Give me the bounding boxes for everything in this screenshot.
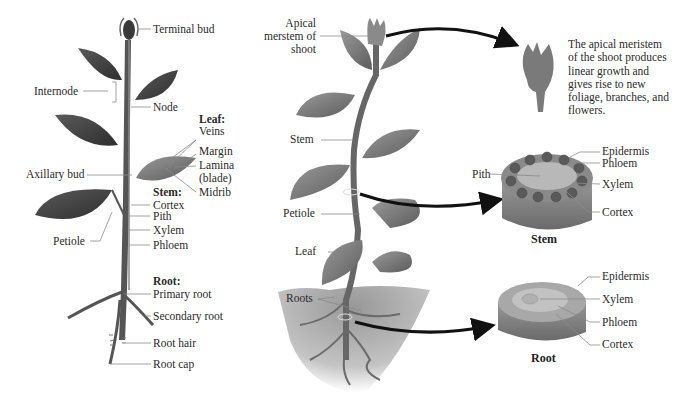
label-internode: Internode xyxy=(34,85,78,98)
label-petiole-middle: Petiole xyxy=(283,207,315,220)
label-petiole-left: Petiole xyxy=(53,235,85,248)
apical-description-line: gives rise to new xyxy=(568,78,692,91)
label-midrib: Midrib xyxy=(199,186,231,199)
label-terminal-bud: Terminal bud xyxy=(153,23,214,36)
label-stem-section-pith: Pith xyxy=(472,168,491,181)
apical-bud-icon xyxy=(367,18,385,46)
label-stem-phloem: Phloem xyxy=(153,239,188,252)
label-leaf-middle: Leaf xyxy=(295,245,316,258)
label-stem-heading: Stem: xyxy=(153,186,182,199)
label-apical-line3: shoot xyxy=(260,43,316,56)
apical-description-line: foliage, branches, and xyxy=(568,91,692,104)
label-lamina: Lamina xyxy=(199,159,234,172)
apical-meristem-detail xyxy=(523,42,554,112)
root-section-caption: Root xyxy=(531,351,556,366)
label-stem-xylem: Xylem xyxy=(153,224,184,237)
label-veins: Veins xyxy=(199,125,225,138)
apical-description-line: The apical meristem xyxy=(568,38,692,51)
label-apical-line1: Apical xyxy=(260,17,316,30)
label-stem-section-xylem: Xylem xyxy=(602,178,633,191)
root-cross-section xyxy=(498,277,600,345)
label-stem-section-cortex: Cortex xyxy=(602,206,633,219)
label-root-cap: Root cap xyxy=(153,358,194,371)
label-roots-middle: Roots xyxy=(286,292,313,305)
terminal-bud-icon xyxy=(120,18,138,40)
label-apical-line2: merstem of xyxy=(250,30,316,43)
stem-section-caption: Stem xyxy=(531,232,557,247)
label-blade: (blade) xyxy=(199,172,232,185)
label-margin: Margin xyxy=(199,145,233,158)
label-node: Node xyxy=(153,101,178,114)
apical-description-line: flowers. xyxy=(568,104,692,117)
label-stem-section-phloem: Phloem xyxy=(602,157,637,170)
label-root-hair: Root hair xyxy=(153,337,196,350)
stem-cross-section xyxy=(490,152,600,230)
label-root-phloem: Phloem xyxy=(602,316,637,329)
label-stem-middle: Stem xyxy=(290,133,314,146)
label-root-xylem: Xylem xyxy=(602,293,633,306)
label-axillary-bud: Axillary bud xyxy=(26,168,84,181)
label-stem-pith: Pith xyxy=(153,210,172,223)
label-root-heading: Root: xyxy=(153,275,180,288)
label-secondary-root: Secondary root xyxy=(153,310,223,323)
apical-description-line: linear growth and xyxy=(568,65,692,78)
label-primary-root: Primary root xyxy=(153,288,211,301)
apical-description: The apical meristem of the shoot produce… xyxy=(568,38,692,118)
label-root-cortex: Cortex xyxy=(602,338,633,351)
label-root-epidermis: Epidermis xyxy=(602,270,649,283)
apical-description-line: of the shoot produces xyxy=(568,51,692,64)
